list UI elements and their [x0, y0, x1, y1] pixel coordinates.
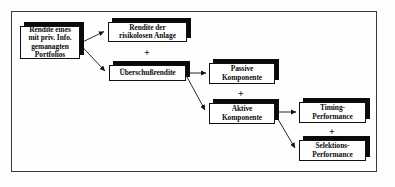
node-label: Überschußrendite — [117, 69, 177, 77]
node-label: Timing- Performance — [310, 104, 355, 121]
node-face: Überschußrendite — [109, 65, 186, 81]
node-face: Rendite eines mit priv. Info. gemanagten… — [20, 26, 80, 59]
node-face: Selektions- Performance — [299, 140, 366, 161]
node-label: Passive Komponente — [220, 65, 264, 82]
operator-plus-1: + — [144, 48, 150, 58]
node-label: Aktive Komponente — [220, 105, 264, 122]
edge-ueberschuss-to-aktive — [187, 76, 206, 110]
diagram-canvas: Rendite eines mit priv. Info. gemanagten… — [0, 0, 395, 187]
node-risikolose-rendite[interactable]: Rendite der risikolosen Anlage — [108, 22, 187, 42]
node-aktive-komponente[interactable]: Aktive Komponente — [209, 103, 275, 124]
node-ueberschussrendite[interactable]: Überschußrendite — [109, 65, 186, 81]
node-face: Aktive Komponente — [209, 103, 275, 124]
node-face: Passive Komponente — [209, 63, 275, 84]
node-timing-performance[interactable]: Timing- Performance — [299, 102, 366, 123]
edge-portfolio-to-risikolose — [81, 32, 105, 44]
node-portfolio-rendite[interactable]: Rendite eines mit priv. Info. gemanagten… — [20, 26, 80, 59]
node-selektions-performance[interactable]: Selektions- Performance — [299, 140, 366, 161]
node-face: Rendite der risikolosen Anlage — [108, 22, 187, 42]
operator-plus-2: + — [238, 89, 244, 99]
node-label: Rendite eines mit priv. Info. gemanagten… — [26, 26, 73, 60]
node-passive-komponente[interactable]: Passive Komponente — [209, 63, 275, 84]
node-label: Selektions- Performance — [310, 142, 355, 159]
node-face: Timing- Performance — [299, 102, 366, 123]
node-label: Rendite der risikolosen Anlage — [117, 24, 178, 41]
edge-portfolio-to-ueberschuss — [81, 45, 106, 71]
